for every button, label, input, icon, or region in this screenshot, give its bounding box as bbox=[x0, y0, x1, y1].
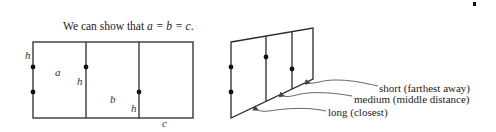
diagram-canvas: We can show that a = b = c. h a h b h c … bbox=[0, 0, 496, 132]
title-equation: a = b = c bbox=[147, 20, 191, 32]
annotation-long: long (closest) bbox=[328, 106, 388, 119]
label-c: c bbox=[162, 117, 167, 129]
title-text: We can show that a = b = c. bbox=[63, 20, 194, 32]
label-h-middle: h bbox=[77, 75, 83, 87]
dot-left-lower bbox=[31, 90, 36, 95]
dot-right bbox=[137, 90, 142, 95]
left-diagram: h a h b h c bbox=[25, 42, 193, 129]
arrow-long bbox=[258, 108, 326, 111]
perspective-outline bbox=[231, 28, 313, 118]
perspective-dot-left-upper bbox=[229, 65, 234, 70]
arrow-short bbox=[310, 80, 378, 86]
corner-mark bbox=[473, 2, 476, 6]
title-prefix: We can show that bbox=[63, 20, 147, 32]
label-a: a bbox=[55, 66, 61, 78]
perspective-dot-middle bbox=[264, 55, 269, 60]
perspective-dot-right bbox=[290, 67, 295, 72]
arrow-medium bbox=[284, 93, 352, 97]
annotation-medium: medium (middle distance) bbox=[354, 93, 470, 106]
outer-rectangle bbox=[33, 42, 193, 118]
label-h-right: h bbox=[131, 102, 137, 114]
label-h-left: h bbox=[25, 49, 31, 61]
perspective-dot-left-lower bbox=[229, 90, 234, 95]
dot-middle bbox=[84, 65, 89, 70]
label-b: b bbox=[110, 93, 116, 105]
right-diagram: short (farthest away) medium (middle dis… bbox=[229, 28, 471, 119]
dot-left-upper bbox=[31, 65, 36, 70]
title-suffix: . bbox=[191, 20, 194, 32]
